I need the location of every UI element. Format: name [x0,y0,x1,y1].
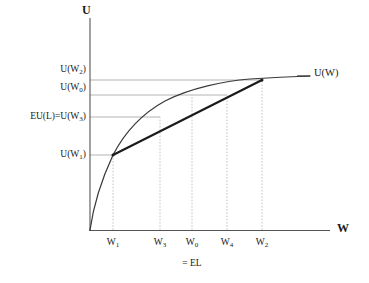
y-tick-label-eu-l: EU(L)=U(W3) [0,112,86,122]
x-axis-label: W [337,222,349,234]
y-axis-label: U [82,4,91,16]
x-tick-label-w2: W2 [256,238,268,248]
x-tick-label-w0: W0 [186,238,198,248]
plot-canvas [0,0,369,283]
x-tick-label-w4-main: W [221,237,230,247]
y-tick-label-u-w1: U(W1) [0,150,86,160]
y-tick-label-u-w0-sub: 0 [79,86,83,94]
y-tick-label-u-w0-main: U(W [60,82,79,92]
x-tick-label-w1-main: W [107,237,116,247]
x-tick-label-w2-sub: 2 [265,241,269,249]
y-tick-label-u-w2: U(W2) [0,65,86,75]
horizontal-guide-lines [90,80,262,155]
y-tick-label-eu-l-tail: ) [83,111,86,121]
x-tick-label-w1-sub: 1 [116,241,120,249]
vertical-guide-lines [113,80,262,230]
x-tick-label-w4-sub: 4 [230,241,234,249]
y-tick-label-u-w2-tail: ) [83,64,86,74]
y-tick-label-eu-l-main: EU(L)=U(W [30,111,79,121]
x-tick-label-w0-main: W [186,237,195,247]
y-tick-label-u-w1-tail: ) [83,149,86,159]
y-tick-label-u-w1-sub: 1 [79,153,83,161]
utility-curve-label: U(W) [314,68,339,79]
y-tick-label-u-w0: U(W0) [0,83,86,93]
x-tick-label-w3: W3 [154,238,166,248]
x-tick-label-w1: W1 [107,238,119,248]
x-tick-label-w3-sub: 3 [163,241,167,249]
y-tick-label-u-w0-tail: ) [83,82,86,92]
x-tick-label-w0-sub: 0 [195,241,199,249]
utility-curve [90,76,310,230]
expected-utility-diagram: U W U(W) U(W2) U(W0) EU(L)=U(W3) U(W1) W… [0,0,369,283]
y-tick-label-u-w2-main: U(W [60,64,79,74]
y-tick-label-u-w1-main: U(W [60,149,79,159]
marker-point-w2 [261,79,264,82]
y-tick-label-u-w2-sub: 2 [79,68,83,76]
x-tick-label-w4: W4 [221,238,233,248]
x-tick-label-w2-main: W [256,237,265,247]
marker-point-w1 [112,154,115,157]
expected-loss-note: = EL [182,259,201,269]
y-tick-label-eu-l-sub: 3 [79,115,83,123]
x-tick-label-w3-main: W [154,237,163,247]
